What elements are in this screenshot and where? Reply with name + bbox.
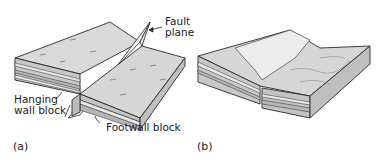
panel-a-label: (a) [13,141,28,152]
fault-plane-label: Fault plane [165,16,194,38]
footwall-label: Footwall block [106,122,181,133]
fault-block-diagram: Fault plane Hanging wall block Footwall … [0,0,376,164]
hanging-wall-label: Hanging wall block [14,94,66,116]
fault-plane-label-line2: plane [165,27,194,38]
hanging-wall-label-line2: wall block [14,105,66,116]
panel-b-label: (b) [197,141,213,152]
